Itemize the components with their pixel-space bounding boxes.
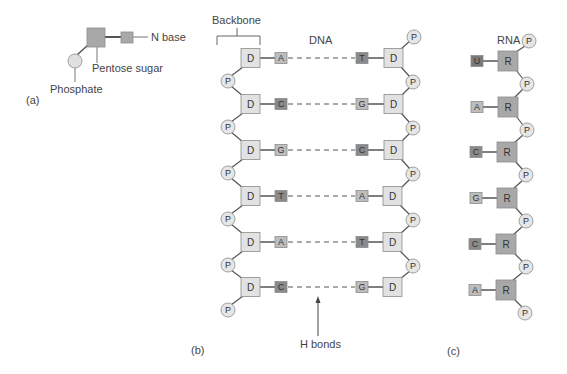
rna-nucleotide: RCP [469,234,533,281]
base-glyph: A [474,102,480,112]
pentose-sugar-label: Pentose sugar [92,62,163,74]
sugar-glyph: R [502,239,509,250]
base-glyph: G [277,145,284,155]
nucleic-acid-diagram: N base Pentose sugar Phosphate (a) Backb… [0,0,567,374]
sugar-glyph: D [389,282,396,293]
phosphate-glyph: P [225,214,231,224]
phosphate-glyph: P [523,216,529,226]
base-glyph: C [473,147,480,157]
base-glyph: A [278,237,284,247]
base-glyph: C [359,145,366,155]
n-base-shape [121,32,133,43]
dna-base-pair-row: DDATPP [221,233,420,280]
arrow-head-icon [316,296,321,303]
rna-nucleotide: RAP [469,280,532,320]
panel-b-label: (b) [191,344,204,356]
sugar-glyph: R [504,56,511,67]
sugar-glyph: D [390,53,397,64]
base-glyph: U [474,56,481,66]
phosphate-glyph: P [524,125,530,135]
base-glyph: G [358,282,365,292]
sugar-glyph: D [390,145,397,156]
phosphate-glyph: P [411,32,417,42]
dna-base-pair-row: DDGCPP [221,141,420,189]
phosphate-glyph: P [410,77,416,87]
rna-strand: PRUPRAPRCPRGPRCPRAP [469,34,536,320]
sugar-glyph: D [247,99,254,110]
n-base-label: N base [151,31,186,43]
panel-b: Backbone DNA DDATPPPDDCGPPDDGCPPDDTAPPDD… [191,14,421,356]
rna-nucleotide: RGP [470,188,533,235]
rna-nucleotide: RAP [471,97,534,143]
sugar-glyph: D [247,145,254,156]
rna-title: RNA [497,34,521,46]
sugar-glyph: D [389,237,396,248]
phosphate-glyph: P [524,79,530,89]
base-glyph: T [359,53,365,63]
phosphate-glyph: P [523,170,529,180]
base-glyph: A [278,53,284,63]
base-glyph: G [472,193,479,203]
phosphate-glyph: P [522,308,528,318]
phosphate-glyph: P [225,260,231,270]
panel-a: N base Pentose sugar Phosphate (a) [26,28,186,106]
phosphate-glyph: P [410,261,416,271]
sugar-glyph: D [247,191,254,202]
sugar-glyph: R [502,285,509,296]
sugar-glyph: D [389,191,396,202]
rna-nucleotide: RCP [470,142,533,189]
phosphate-shape [68,54,82,68]
base-glyph: C [278,99,285,109]
dna-base-pair-row: DDCGPP [221,95,420,143]
base-glyph: C [278,282,285,292]
phosphate-glyph: P [410,215,416,225]
base-glyph: C [472,239,479,249]
dna-base-pair-row: DDTAPP [221,187,420,235]
dna-base-pair-row: DDCGP [221,278,402,318]
phosphate-label: Phosphate [50,83,103,95]
phosphate-glyph: P [526,36,532,46]
sugar-glyph: R [503,193,510,204]
base-glyph: A [359,191,365,201]
base-glyph: T [278,191,284,201]
dna-title: DNA [309,34,333,46]
base-glyph: T [359,237,365,247]
sugar-glyph: D [247,53,254,64]
h-bonds-label: H bonds [300,338,341,350]
backbone-label: Backbone [212,14,261,26]
panel-a-label: (a) [26,94,39,106]
sugar-glyph: D [247,237,254,248]
base-glyph: G [358,99,365,109]
backbone-bracket [217,28,260,45]
pentose-sugar-shape [87,28,105,47]
panel-c: RNA PRUPRAPRCPRGPRCPRAP (c) [447,34,536,357]
phosphate-glyph: P [225,122,231,132]
panel-c-label: (c) [447,345,460,357]
phosphate-glyph: P [225,305,231,315]
phosphate-glyph: P [410,123,416,133]
sugar-glyph: D [247,282,254,293]
phosphate-glyph: P [225,168,231,178]
phosphate-glyph: P [523,262,529,272]
phosphate-glyph: P [410,169,416,179]
phosphate-glyph: P [225,76,231,86]
base-glyph: A [472,285,478,295]
sugar-glyph: R [504,102,511,113]
sugar-glyph: D [390,99,397,110]
dna-strands: DDATPPPDDCGPPDDGCPPDDTAPPDDATPPDDCGP [221,30,421,317]
sugar-glyph: R [503,147,510,158]
